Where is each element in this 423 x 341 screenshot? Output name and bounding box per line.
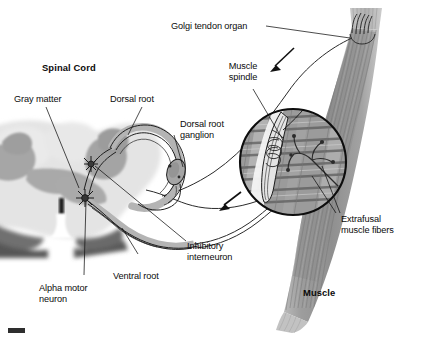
label-extrafusal-line2: muscle fibers bbox=[341, 225, 394, 236]
label-muscle-spindle-line1: Muscle bbox=[213, 61, 273, 72]
label-inhibitory-line1: Inhibitory bbox=[187, 241, 223, 252]
label-golgi-tendon-organ: Golgi tendon organ bbox=[171, 21, 247, 32]
label-muscle-spindle-line2: spindle bbox=[213, 72, 273, 83]
label-ventral-root: Ventral root bbox=[113, 271, 159, 282]
label-muscle: Muscle bbox=[303, 288, 335, 299]
label-dorsal-root: Dorsal root bbox=[110, 94, 154, 105]
anatomical-figure: Spinal Cord Gray matter Dorsal root Dors… bbox=[0, 0, 423, 341]
label-dorsal-root-ganglion-line1: Dorsal root bbox=[180, 119, 224, 130]
scale-bar bbox=[8, 328, 25, 333]
label-dorsal-root-ganglion-line2: ganglion bbox=[180, 130, 214, 141]
label-inhibitory-line2: interneuron bbox=[187, 252, 232, 263]
label-spinal-cord: Spinal Cord bbox=[42, 63, 96, 74]
label-alpha-motor-line2: neuron bbox=[39, 294, 67, 305]
label-gray-matter: Gray matter bbox=[14, 94, 61, 105]
label-alpha-motor-line1: Alpha motor bbox=[39, 283, 87, 294]
upper-tendon bbox=[350, 8, 382, 30]
central-canal bbox=[59, 198, 64, 214]
label-extrafusal-line1: Extrafusal bbox=[341, 214, 381, 225]
